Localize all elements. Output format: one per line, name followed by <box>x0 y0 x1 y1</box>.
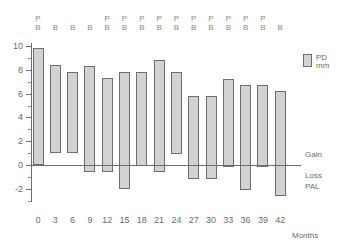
legend-label-line2: mm <box>316 61 329 70</box>
side-annotation: Gain <box>305 150 322 159</box>
legend-swatch-pd <box>303 54 312 67</box>
x-axis-label: Months <box>292 231 318 240</box>
side-annotation-layer: GainLossPAL <box>0 0 351 251</box>
side-annotation: Loss <box>305 171 322 180</box>
bar-chart: PBXBXBXBPBPBPBPBPBPBPBPBPBPBXB 1086420-2… <box>0 0 351 251</box>
side-annotation: PAL <box>305 182 320 191</box>
